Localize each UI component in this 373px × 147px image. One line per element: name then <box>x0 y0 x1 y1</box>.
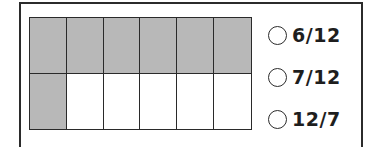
grid-cell-unshaded <box>177 74 214 130</box>
option-label: 6/12 <box>292 26 341 45</box>
radio-button-icon[interactable] <box>268 68 287 87</box>
option-6-12[interactable]: 6/12 <box>268 23 358 47</box>
fraction-grid <box>29 17 252 130</box>
grid-cell-shaded <box>67 18 104 74</box>
option-12-7[interactable]: 12/7 <box>268 107 358 131</box>
grid-cell-unshaded <box>140 74 177 130</box>
option-7-12[interactable]: 7/12 <box>268 65 358 89</box>
grid-cell-shaded <box>177 18 214 74</box>
grid-cell-unshaded <box>214 74 251 130</box>
option-label: 12/7 <box>292 110 341 129</box>
grid-cell-shaded <box>30 74 67 130</box>
radio-button-icon[interactable] <box>268 26 287 45</box>
grid-cell-shaded <box>30 18 67 74</box>
grid-cell-unshaded <box>67 74 104 130</box>
answer-options: 6/12 7/12 12/7 <box>268 23 358 147</box>
option-label: 7/12 <box>292 68 341 87</box>
grid-cell-shaded <box>214 18 251 74</box>
radio-button-icon[interactable] <box>268 110 287 129</box>
grid-cell-shaded <box>140 18 177 74</box>
grid-cell-shaded <box>104 18 141 74</box>
grid-cell-unshaded <box>104 74 141 130</box>
